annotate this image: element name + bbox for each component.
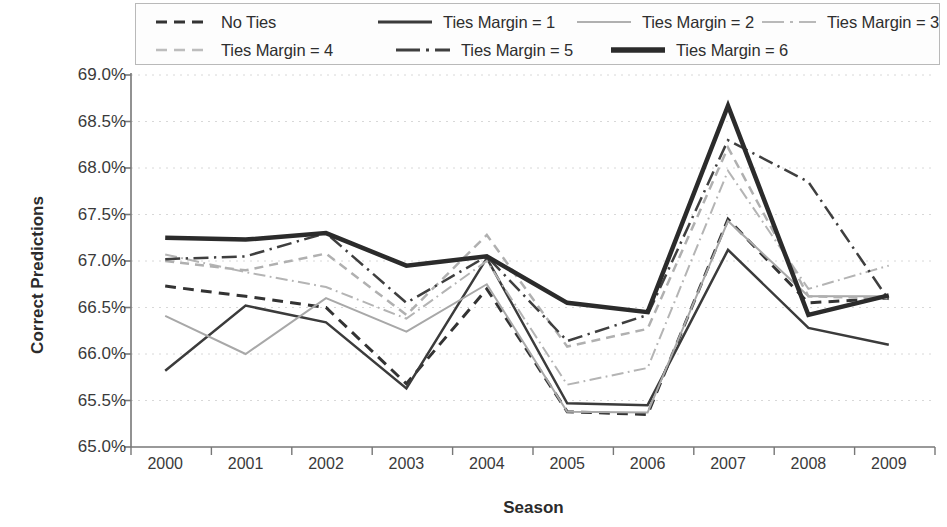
x-axis-tick-label: 2006 bbox=[613, 455, 683, 473]
chart-root: No Ties Ties Margin = 1 Ties Margin = 2 … bbox=[0, 0, 947, 527]
series-line-6 bbox=[165, 106, 889, 315]
x-axis-tick-label: 2001 bbox=[211, 455, 281, 473]
x-axis-tick-label: 2002 bbox=[291, 455, 361, 473]
plot-svg bbox=[0, 0, 947, 527]
y-axis-tick-label: 69.0% bbox=[30, 65, 126, 85]
series-line-1 bbox=[165, 250, 889, 405]
x-axis-tick-label: 2003 bbox=[371, 455, 441, 473]
x-axis-tick-label: 2000 bbox=[130, 455, 200, 473]
x-axis-tick-label: 2008 bbox=[773, 455, 843, 473]
x-axis-tick-label: 2004 bbox=[452, 455, 522, 473]
y-axis-tick-label: 65.0% bbox=[30, 437, 126, 457]
y-axis-tick-label: 68.5% bbox=[30, 112, 126, 132]
x-axis-tick-label: 2005 bbox=[532, 455, 602, 473]
plot-area: 69.0%68.5%68.0%67.5%67.0%66.5%66.0%65.5%… bbox=[0, 0, 947, 527]
x-axis-tick-label: 2007 bbox=[693, 455, 763, 473]
x-axis-tick-label: 2009 bbox=[854, 455, 924, 473]
series-line-2 bbox=[165, 221, 889, 413]
y-axis-title: Correct Predictions bbox=[28, 145, 48, 405]
x-axis-title: Season bbox=[120, 498, 947, 518]
